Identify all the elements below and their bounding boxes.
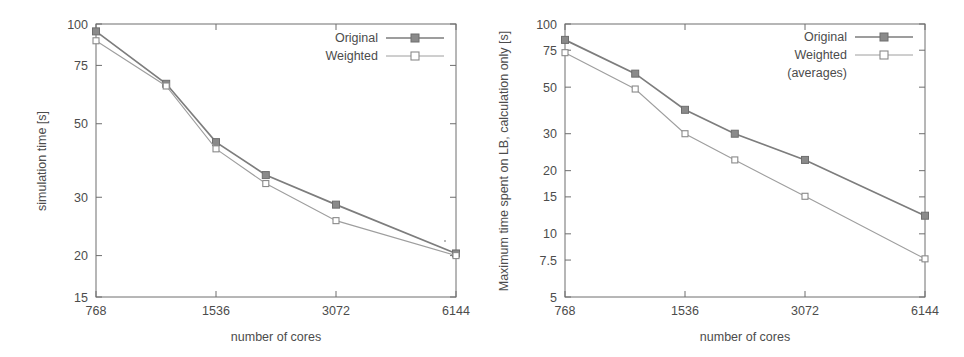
y-tick-label: 15: [74, 291, 88, 305]
x-axis-title: number of cores: [231, 330, 321, 344]
x-axis-title: number of cores: [700, 330, 790, 344]
data-point-marker: [333, 201, 340, 208]
y-axis-tick-labels: 1520305075100: [67, 18, 88, 305]
y-axis-title: Maximum time spent on LB, calculation on…: [497, 31, 511, 292]
y-tick-label: 10: [543, 227, 557, 241]
series-1: [93, 28, 460, 257]
y-tick-label: 30: [543, 127, 557, 141]
x-tick-label: 6144: [911, 304, 939, 318]
x-axis-ticks: [96, 24, 456, 297]
legend-swatch-weighted: [855, 51, 913, 59]
legend: Original Weighted (averages): [787, 30, 913, 80]
x-tick-label: 768: [86, 304, 107, 318]
series-line: [96, 31, 456, 253]
scan-artifact-speck: [444, 240, 446, 242]
legend-swatch-original: [855, 33, 913, 41]
data-point-marker: [632, 70, 639, 77]
data-point-marker: [731, 130, 738, 137]
plot-svg-right: 57.5101520305075100 768153630726144 numb…: [482, 0, 964, 357]
x-axis-tick-labels: 768153630726144: [555, 304, 939, 318]
data-point-marker: [802, 193, 808, 199]
x-tick-label: 1536: [202, 304, 230, 318]
y-tick-label: 30: [74, 191, 88, 205]
data-point-marker: [163, 83, 169, 89]
data-point-marker: [922, 256, 928, 262]
x-tick-label: 3072: [791, 304, 819, 318]
data-point-marker: [562, 36, 569, 43]
y-axis-title: simulation time [s]: [35, 111, 49, 211]
x-tick-label: 3072: [322, 304, 350, 318]
data-point-marker: [682, 106, 689, 113]
legend-label-weighted-sublabel: (averages): [787, 66, 847, 80]
chart-panel-right: 57.5101520305075100 768153630726144 numb…: [482, 0, 964, 357]
data-point-marker: [93, 28, 100, 35]
series-line: [565, 40, 925, 216]
y-axis-tick-labels: 57.5101520305075100: [536, 18, 557, 305]
data-point-marker: [802, 156, 809, 163]
y-tick-label: 15: [543, 190, 557, 204]
data-point-marker: [333, 218, 339, 224]
y-tick-label: 7.5: [540, 254, 557, 268]
legend-label-weighted: Weighted: [325, 49, 378, 63]
data-series-group: [562, 36, 929, 261]
x-tick-label: 6144: [442, 304, 470, 318]
data-point-marker: [93, 38, 99, 44]
data-point-marker: [562, 50, 568, 56]
x-axis-tick-labels: 768153630726144: [86, 304, 470, 318]
data-point-marker: [263, 181, 269, 187]
plot-svg-left: 1520305075100 768153630726144 number of …: [0, 0, 482, 357]
x-tick-label: 1536: [671, 304, 699, 318]
data-point-marker: [922, 212, 929, 219]
y-axis-ticks: [96, 24, 456, 297]
data-point-marker: [453, 253, 459, 259]
y-tick-label: 5: [550, 291, 557, 305]
y-tick-label: 75: [74, 59, 88, 73]
y-tick-label: 100: [67, 18, 88, 32]
legend-swatch-weighted: [386, 52, 444, 60]
plot-frame: [96, 24, 456, 297]
legend: Original Weighted: [325, 31, 444, 63]
data-point-marker: [682, 131, 688, 137]
x-tick-label: 768: [555, 304, 576, 318]
series-1: [562, 36, 929, 219]
legend-label-original: Original: [335, 31, 378, 45]
series-2: [562, 50, 928, 262]
legend-label-original: Original: [804, 30, 847, 44]
data-series-group: [93, 28, 460, 259]
data-point-marker: [732, 157, 738, 163]
y-tick-label: 100: [536, 18, 557, 32]
legend-swatch-original: [386, 34, 444, 42]
legend-label-weighted: Weighted: [794, 48, 847, 62]
figure-two-panel-line-charts: 1520305075100 768153630726144 number of …: [0, 0, 964, 357]
series-line: [96, 41, 456, 256]
y-tick-label: 20: [543, 164, 557, 178]
data-point-marker: [213, 139, 220, 146]
y-tick-label: 20: [74, 249, 88, 263]
y-tick-label: 50: [74, 117, 88, 131]
series-line: [565, 53, 925, 259]
data-point-marker: [262, 172, 269, 179]
y-tick-label: 50: [543, 81, 557, 95]
chart-panel-left: 1520305075100 768153630726144 number of …: [0, 0, 482, 357]
plot-area-right: 57.5101520305075100 768153630726144: [536, 18, 939, 319]
data-point-marker: [632, 86, 638, 92]
plot-area-left: 1520305075100 768153630726144: [67, 18, 470, 319]
y-tick-label: 75: [543, 44, 557, 58]
data-point-marker: [213, 146, 219, 152]
